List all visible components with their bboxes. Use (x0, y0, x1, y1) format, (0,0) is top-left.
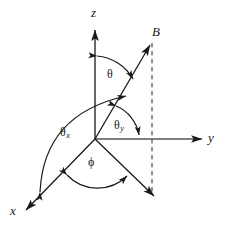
angle-theta-x-subscript: x (66, 130, 70, 140)
angle-theta-y-subscript: y (120, 123, 124, 133)
b-vector-label: B (152, 25, 160, 38)
angle-phi-arc (67, 175, 127, 188)
angle-theta-y-glyph: θ (114, 118, 120, 132)
z-axis-label: z (91, 6, 96, 19)
diagram-canvas (0, 0, 228, 228)
angle-phi-glyph: ϕ (88, 155, 94, 169)
angle-theta-x-arc (40, 96, 126, 192)
angle-theta-x-glyph: θ (60, 125, 66, 139)
x-axis-label: x (10, 204, 16, 217)
angle-theta-glyph: θ (107, 67, 113, 81)
y-axis-label: y (208, 131, 214, 144)
x-axis-line (26, 139, 95, 210)
angle-theta-y-label: θy (114, 119, 124, 131)
angle-theta-x-label: θx (60, 126, 70, 138)
angle-theta-label: θ (107, 68, 113, 80)
vector-angle-diagram: z y x B θ θx θy ϕ (0, 0, 228, 228)
angle-phi-label: ϕ (88, 156, 94, 168)
angle-theta-arc (97, 56, 133, 79)
